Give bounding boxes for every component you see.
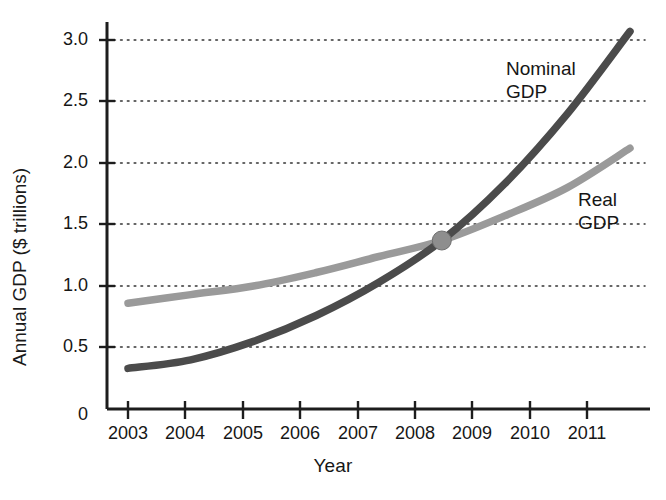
xtick-label-2007: 2007 (329, 423, 387, 444)
intersection-marker (432, 231, 451, 250)
ytick-label-1-5: 1.5 (30, 213, 88, 234)
series-label-real-line1: Real (578, 188, 619, 211)
ytick-label-0: 0 (30, 404, 88, 425)
series-label-nominal-line1: Nominal (506, 57, 576, 80)
xtick-label-2005: 2005 (214, 423, 272, 444)
series-label-nominal-line2: GDP (506, 80, 576, 103)
ytick-label-2-5: 2.5 (30, 90, 88, 111)
xtick-label-2009: 2009 (443, 423, 501, 444)
xtick-label-2011: 2011 (558, 423, 616, 444)
ytick-label-0-5: 0.5 (30, 336, 88, 357)
gdp-line-chart: 0 0.5 1.0 1.5 2.0 2.5 3.0 2003 2004 2005… (0, 0, 666, 500)
xtick-label-2008: 2008 (386, 423, 444, 444)
y-axis-title-text: Annual GDP ($ trillions) (9, 168, 31, 366)
series-label-real: Real GDP (578, 188, 619, 234)
series-label-real-line2: GDP (578, 211, 619, 234)
xtick-label-2006: 2006 (271, 423, 329, 444)
ytick-label-3-0: 3.0 (30, 29, 88, 50)
x-axis-title: Year (0, 455, 666, 477)
xtick-label-2010: 2010 (501, 423, 559, 444)
ytick-label-2-0: 2.0 (30, 152, 88, 173)
ytick-label-1-0: 1.0 (30, 275, 88, 296)
xtick-label-2003: 2003 (99, 423, 157, 444)
series-label-nominal: Nominal GDP (506, 57, 576, 103)
xtick-label-2004: 2004 (156, 423, 214, 444)
